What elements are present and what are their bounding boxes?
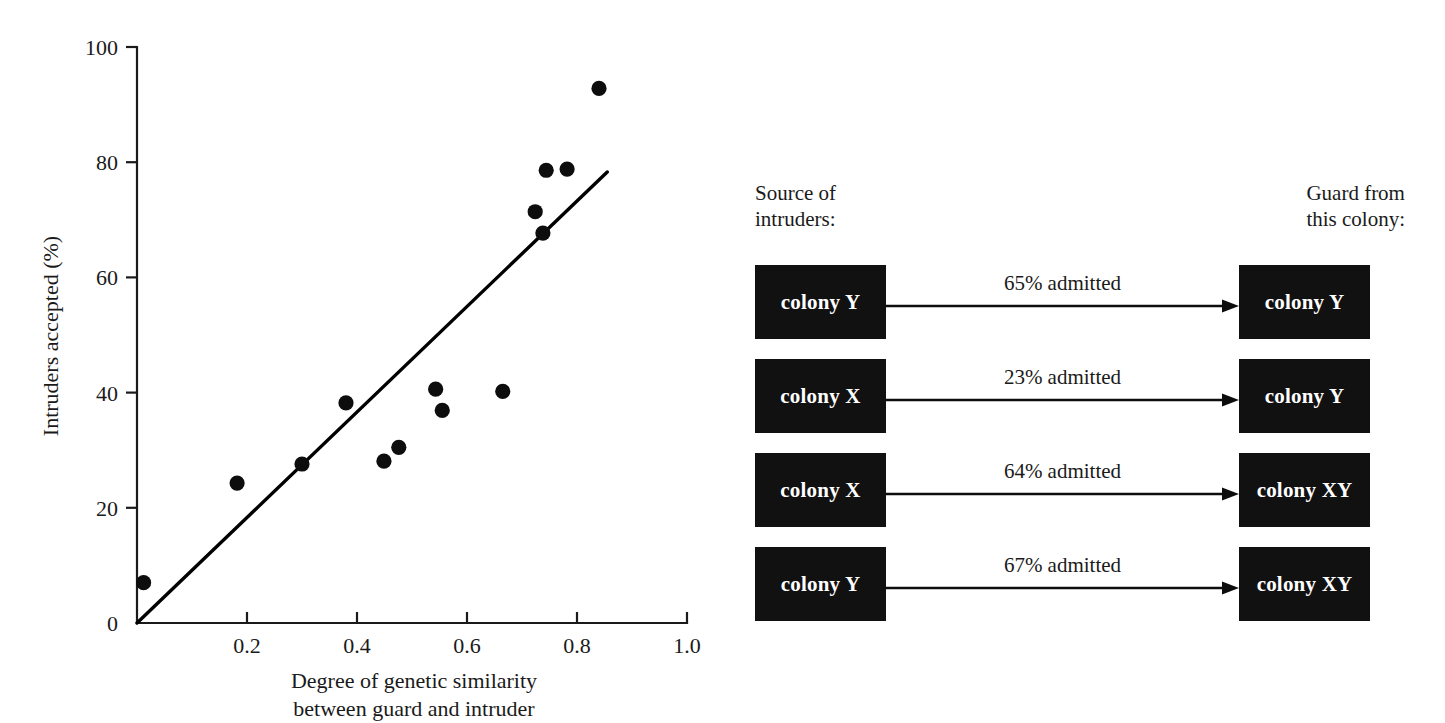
y-tick-label-0: 0 (107, 611, 118, 636)
source-colony-box[interactable]: colony X (755, 453, 886, 527)
flow-row: colony X64% admittedcolony XY (720, 453, 1445, 527)
x-tick-label-0.2: 0.2 (233, 633, 261, 658)
data-point-3[interactable] (338, 395, 353, 410)
data-point-6[interactable] (428, 382, 443, 397)
y-tick-label-80: 80 (96, 150, 118, 175)
chart-axes (137, 47, 687, 623)
data-point-10[interactable] (535, 225, 550, 240)
source-colony-box[interactable]: colony Y (755, 547, 886, 621)
admitted-percentage-label: 67% admitted (886, 553, 1239, 578)
admitted-arrow: 65% admitted (886, 265, 1239, 339)
admitted-percentage-label: 23% admitted (886, 365, 1239, 390)
source-of-intruders-header: Source ofintruders: (755, 180, 836, 232)
y-tick-label-20: 20 (96, 496, 118, 521)
data-point-5[interactable] (391, 440, 406, 455)
figure-page: 0204060801000.20.40.60.81.0Intruders acc… (0, 0, 1445, 723)
x-axis-title-line2: between guard and intruder (293, 696, 535, 721)
data-point-7[interactable] (435, 403, 450, 418)
guard-colony-box[interactable]: colony Y (1239, 359, 1370, 433)
admitted-arrow: 23% admitted (886, 359, 1239, 433)
x-tick-label-1.0: 1.0 (673, 633, 701, 658)
header-right-line1: Guard from (1306, 181, 1405, 205)
data-point-2[interactable] (294, 456, 309, 471)
data-point-0[interactable] (136, 575, 151, 590)
arrow-icon (886, 483, 1239, 505)
y-axis-title: Intruders accepted (%) (38, 236, 63, 436)
guard-colony-box[interactable]: colony Y (1239, 265, 1370, 339)
flow-row: colony Y67% admittedcolony XY (720, 547, 1445, 621)
data-point-9[interactable] (528, 204, 543, 219)
arrow-icon (886, 389, 1239, 411)
admitted-percentage-label: 65% admitted (886, 271, 1239, 296)
x-tick-label-0.6: 0.6 (453, 633, 481, 658)
admitted-arrow: 64% admitted (886, 453, 1239, 527)
flow-row: colony Y65% admittedcolony Y (720, 265, 1445, 339)
x-tick-label-0.4: 0.4 (343, 633, 371, 658)
data-point-11[interactable] (539, 163, 554, 178)
data-point-12[interactable] (560, 162, 575, 177)
scatter-plot-svg: 0204060801000.20.40.60.81.0Intruders acc… (0, 0, 720, 723)
guard-colony-box[interactable]: colony XY (1239, 547, 1370, 621)
x-tick-label-0.8: 0.8 (563, 633, 591, 658)
header-right-line2: this colony: (1306, 207, 1405, 231)
y-tick-label-60: 60 (96, 265, 118, 290)
regression-line (137, 172, 607, 623)
data-point-8[interactable] (495, 384, 510, 399)
flow-row: colony X23% admittedcolony Y (720, 359, 1445, 433)
arrow-icon (886, 577, 1239, 599)
y-tick-label-40: 40 (96, 381, 118, 406)
admitted-percentage-label: 64% admitted (886, 459, 1239, 484)
colony-flow-diagram: Source ofintruders: Guard fromthis colon… (720, 0, 1445, 723)
x-axis-title-line1: Degree of genetic similarity (291, 668, 537, 693)
header-left-line1: Source of (755, 181, 836, 205)
source-colony-box[interactable]: colony X (755, 359, 886, 433)
admitted-arrow: 67% admitted (886, 547, 1239, 621)
scatter-plot-panel: 0204060801000.20.40.60.81.0Intruders acc… (0, 0, 720, 723)
header-left-line2: intruders: (755, 207, 835, 231)
source-colony-box[interactable]: colony Y (755, 265, 886, 339)
data-point-13[interactable] (591, 81, 606, 96)
data-point-1[interactable] (230, 475, 245, 490)
guard-from-this-colony-header: Guard fromthis colony: (1306, 180, 1405, 232)
guard-colony-box[interactable]: colony XY (1239, 453, 1370, 527)
y-tick-label-100: 100 (85, 35, 118, 60)
data-point-4[interactable] (376, 454, 391, 469)
arrow-icon (886, 295, 1239, 317)
